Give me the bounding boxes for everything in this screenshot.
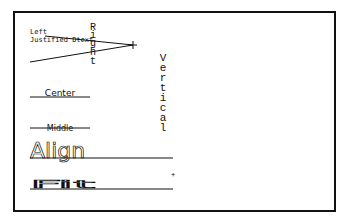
align-label: Align — [30, 138, 85, 163]
right-char: t — [90, 56, 96, 67]
fit-label: Fit — [30, 179, 95, 190]
insertion-point-marker: + — [171, 171, 175, 179]
right-stacked-text: R i g h t — [90, 22, 96, 67]
left-label: Left — [30, 28, 47, 36]
vertical-char: l — [160, 122, 167, 134]
vertical-stacked-text: V e r t i c a l — [160, 52, 167, 134]
cad-drawing: Left Justified Dtext R i g h t V e r t i… — [0, 0, 349, 223]
lower-leader-line — [30, 45, 133, 62]
